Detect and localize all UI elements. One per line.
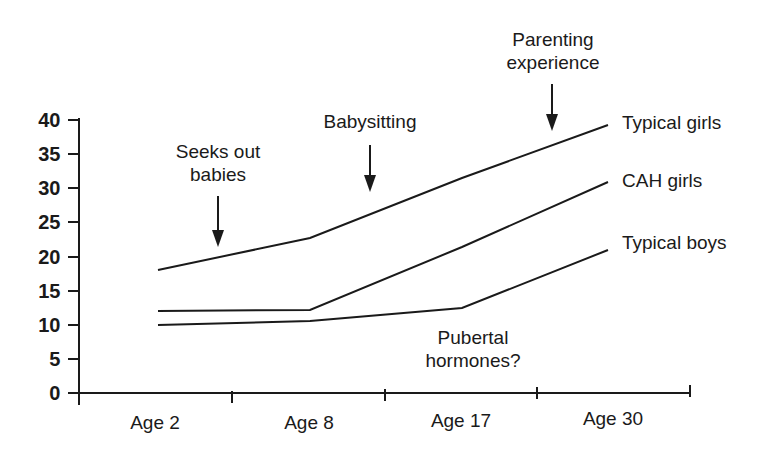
annotation-parenting-experience: Parenting experience xyxy=(482,28,624,74)
y-tick-label-30: 30 xyxy=(18,177,60,200)
y-tick-label-35: 35 xyxy=(18,143,60,166)
y-tick-label-10: 10 xyxy=(18,314,60,337)
chart-figure: 40 35 30 25 20 15 10 5 0 Age 2 Age 8 Age… xyxy=(0,0,780,473)
y-axis-ticks xyxy=(68,120,79,393)
annotation-seeks-out-babies: Seeks out babies xyxy=(148,140,288,186)
y-tick-label-0: 0 xyxy=(18,382,60,405)
annotation-pubertal-hormones: Pubertal hormones? xyxy=(398,326,548,372)
x-tick-label-age-17: Age 17 xyxy=(416,410,506,432)
x-tick-label-age-30: Age 30 xyxy=(568,408,658,430)
annotation-arrow-parenting-experience xyxy=(546,84,558,131)
annotation-arrow-seeks-out-babies xyxy=(212,196,224,247)
y-tick-label-20: 20 xyxy=(18,246,60,269)
series-line-typical-boys xyxy=(158,250,608,325)
series-label-typical-girls: Typical girls xyxy=(622,112,721,134)
x-axis-ticks xyxy=(79,385,690,405)
y-tick-label-40: 40 xyxy=(18,109,60,132)
x-tick-label-age-2: Age 2 xyxy=(110,412,200,434)
annotation-babysitting: Babysitting xyxy=(300,110,440,133)
annotation-arrow-babysitting xyxy=(364,145,376,192)
series-label-cah-girls: CAH girls xyxy=(622,170,702,192)
y-tick-label-15: 15 xyxy=(18,280,60,303)
y-tick-label-25: 25 xyxy=(18,211,60,234)
x-tick-label-age-8: Age 8 xyxy=(264,412,354,434)
series-label-typical-boys: Typical boys xyxy=(622,232,727,254)
y-tick-label-5: 5 xyxy=(18,348,60,371)
series-line-cah-girls xyxy=(158,182,608,311)
